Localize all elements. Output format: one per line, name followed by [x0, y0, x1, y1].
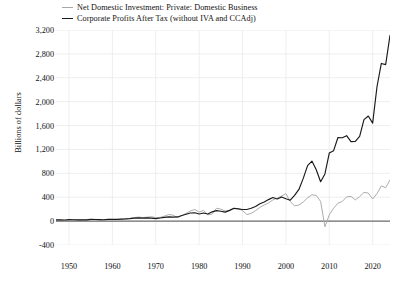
x-tick-label-5: 2000	[278, 262, 294, 271]
x-tick-label-4: 1990	[234, 262, 250, 271]
chart-container: Net Domestic Investment: Private: Domest…	[0, 0, 401, 284]
x-tick-label-6: 2010	[321, 262, 337, 271]
series-line-1	[56, 35, 390, 220]
data-series-layer	[56, 35, 390, 226]
x-tick-label-3: 1980	[191, 262, 207, 271]
x-tick-label-7: 2020	[364, 262, 380, 271]
vertical-gridlines	[69, 30, 373, 245]
plot-area	[56, 30, 390, 245]
x-tick-label-1: 1960	[104, 262, 120, 271]
plot-svg	[56, 30, 390, 245]
x-tick-label-0: 1950	[61, 262, 77, 271]
x-tick-label-2: 1970	[148, 262, 164, 271]
